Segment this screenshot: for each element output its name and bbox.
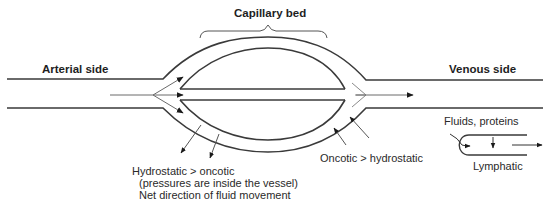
lymphatic-label: Lymphatic — [473, 160, 523, 173]
capillary-bed-brace — [200, 25, 327, 38]
oncotic-gt-hydrostatic-label: Oncotic > hydrostatic — [320, 152, 423, 165]
filtration-arrow-1 — [181, 125, 201, 153]
capillary-upper-inner-wall — [180, 48, 345, 89]
venous-side-label: Venous side — [449, 63, 516, 76]
flow-arrow-lower — [153, 95, 183, 113]
reabsorption-arrow-2 — [350, 117, 369, 138]
capillary-bed-label: Capillary bed — [234, 7, 306, 20]
net-direction-label: Net direction of fluid movement — [139, 189, 291, 202]
capillary-lower-inner-wall — [180, 100, 345, 140]
filtration-arrow-2 — [210, 134, 219, 158]
arterial-side-label: Arterial side — [42, 63, 108, 76]
fluids-proteins-label: Fluids, proteins — [444, 115, 519, 128]
